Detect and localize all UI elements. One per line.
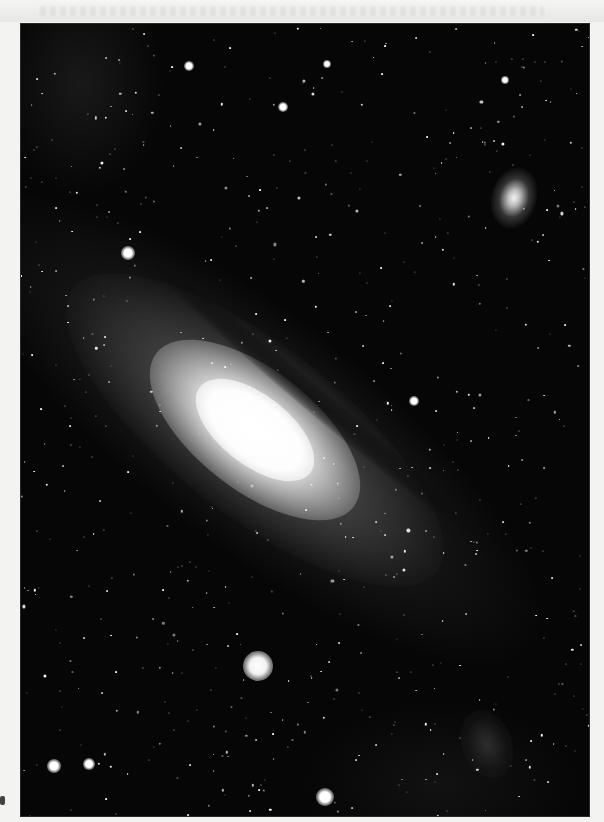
star bbox=[410, 671, 411, 672]
star bbox=[270, 78, 271, 79]
star bbox=[62, 465, 64, 467]
star bbox=[546, 618, 548, 620]
star bbox=[27, 693, 28, 694]
star bbox=[25, 187, 26, 188]
star bbox=[541, 734, 543, 736]
star bbox=[292, 740, 293, 741]
star bbox=[401, 779, 403, 781]
star bbox=[531, 547, 532, 548]
star bbox=[258, 789, 260, 791]
star bbox=[119, 63, 120, 64]
star bbox=[361, 709, 362, 710]
star bbox=[543, 467, 545, 469]
star bbox=[167, 644, 168, 645]
star bbox=[206, 592, 208, 594]
star bbox=[511, 58, 512, 59]
star bbox=[34, 589, 36, 591]
star bbox=[480, 100, 483, 103]
bright-star bbox=[501, 76, 509, 84]
star bbox=[440, 218, 441, 219]
star bbox=[33, 471, 35, 473]
star bbox=[441, 162, 443, 164]
star bbox=[478, 284, 479, 285]
star bbox=[447, 233, 448, 234]
star bbox=[435, 173, 437, 175]
star bbox=[391, 300, 392, 301]
star bbox=[198, 122, 201, 125]
star bbox=[114, 149, 115, 150]
star bbox=[398, 677, 400, 679]
star bbox=[440, 662, 441, 663]
star bbox=[329, 234, 331, 236]
star bbox=[575, 616, 576, 617]
star bbox=[181, 672, 182, 673]
star bbox=[421, 242, 423, 244]
lower-left-satellite-galaxy bbox=[243, 651, 273, 681]
star bbox=[372, 142, 373, 143]
star bbox=[87, 113, 88, 114]
star bbox=[528, 400, 529, 401]
star bbox=[364, 40, 365, 41]
star bbox=[542, 550, 543, 551]
star bbox=[528, 521, 530, 523]
star bbox=[110, 106, 112, 108]
star bbox=[222, 755, 223, 756]
star bbox=[384, 45, 386, 47]
star bbox=[536, 240, 538, 242]
star bbox=[513, 165, 514, 166]
star bbox=[83, 536, 84, 537]
star bbox=[277, 188, 278, 189]
star bbox=[414, 272, 415, 273]
star bbox=[501, 142, 504, 145]
star bbox=[399, 784, 400, 785]
star bbox=[548, 260, 550, 262]
star bbox=[140, 204, 141, 205]
star bbox=[36, 764, 37, 765]
star bbox=[392, 733, 393, 734]
star bbox=[560, 212, 563, 215]
star bbox=[366, 282, 367, 283]
star bbox=[159, 742, 161, 744]
star bbox=[506, 307, 507, 308]
star bbox=[153, 746, 154, 747]
star bbox=[147, 46, 148, 47]
star bbox=[393, 724, 394, 725]
star bbox=[534, 61, 535, 62]
star bbox=[95, 117, 97, 119]
star bbox=[225, 732, 226, 733]
star bbox=[351, 172, 352, 173]
star bbox=[269, 808, 271, 810]
star bbox=[543, 637, 544, 638]
star bbox=[581, 46, 583, 48]
star bbox=[434, 724, 435, 725]
star bbox=[228, 603, 229, 604]
star bbox=[559, 684, 560, 685]
star bbox=[59, 642, 60, 643]
star bbox=[31, 104, 33, 106]
star bbox=[328, 661, 330, 663]
star bbox=[454, 257, 455, 258]
star bbox=[229, 228, 230, 229]
star bbox=[544, 139, 545, 140]
star bbox=[521, 459, 523, 461]
star bbox=[494, 709, 495, 710]
star bbox=[169, 70, 170, 71]
star bbox=[133, 29, 134, 30]
star bbox=[485, 144, 486, 145]
star bbox=[298, 724, 299, 725]
star bbox=[554, 190, 556, 192]
star bbox=[531, 239, 532, 240]
star bbox=[358, 692, 359, 693]
star bbox=[520, 503, 521, 504]
star bbox=[415, 690, 417, 692]
star bbox=[485, 227, 487, 229]
star bbox=[289, 160, 290, 161]
star bbox=[404, 261, 405, 262]
star bbox=[273, 243, 276, 246]
star bbox=[231, 706, 232, 707]
star bbox=[564, 324, 566, 326]
star bbox=[220, 103, 222, 105]
star bbox=[247, 794, 249, 796]
star bbox=[170, 125, 172, 127]
star bbox=[93, 533, 95, 535]
